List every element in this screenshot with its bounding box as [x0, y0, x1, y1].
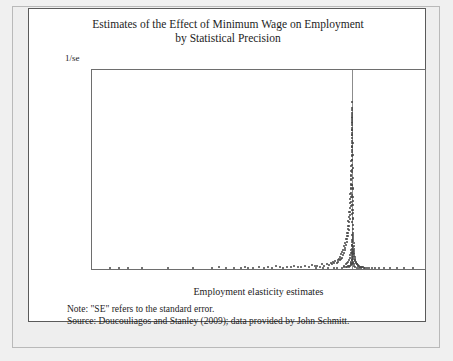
data-point: [363, 267, 365, 269]
data-point: [352, 200, 354, 202]
data-point: [351, 121, 353, 123]
data-point: [351, 194, 353, 196]
y-axis-tick-mark: [91, 154, 92, 155]
data-point: [225, 267, 227, 269]
data-point: [346, 238, 348, 240]
data-point: [342, 254, 344, 256]
data-point: [340, 258, 342, 260]
data-point: [192, 267, 194, 269]
data-point: [351, 184, 353, 186]
figure-panel: Estimates of the Effect of Minimum Wage …: [28, 8, 426, 322]
data-point: [267, 266, 269, 268]
data-point: [349, 218, 351, 220]
data-point: [167, 267, 169, 269]
figure-page: Estimates of the Effect of Minimum Wage …: [0, 0, 453, 361]
data-point: [352, 142, 354, 144]
data-point: [396, 267, 398, 269]
data-point: [327, 267, 329, 269]
x-axis-tick-mark: [291, 269, 292, 270]
data-point: [351, 204, 353, 206]
data-point: [344, 249, 346, 251]
y-axis-tick-mark: [91, 125, 92, 126]
data-point: [352, 217, 354, 219]
data-point: [336, 267, 338, 269]
data-point: [347, 235, 349, 237]
data-point: [352, 177, 354, 179]
data-point: [319, 266, 321, 268]
data-point: [279, 266, 281, 268]
data-point: [240, 267, 242, 269]
data-point: [352, 256, 354, 258]
page-title: Estimates of the Effect of Minimum Wage …: [29, 17, 427, 45]
data-point: [351, 124, 353, 126]
data-point: [308, 266, 310, 268]
data-point: [345, 244, 347, 246]
data-point: [352, 251, 354, 253]
data-point: [347, 261, 349, 263]
data-point: [351, 137, 353, 139]
data-point: [323, 265, 325, 267]
data-point: [352, 188, 354, 190]
data-point: [349, 254, 351, 256]
data-point: [252, 267, 254, 269]
data-point: [258, 266, 260, 268]
data-point: [290, 266, 292, 268]
data-point: [383, 267, 385, 269]
data-point: [389, 267, 391, 269]
y-axis-tick-mark: [91, 182, 92, 183]
x-axis-tick-mark: [170, 269, 171, 270]
data-point: [352, 238, 354, 240]
data-point: [378, 267, 380, 269]
data-point: [127, 267, 129, 269]
data-point: [343, 252, 345, 254]
data-point: [348, 221, 350, 223]
y-axis-tick-mark: [91, 211, 92, 212]
data-point: [247, 267, 249, 269]
data-point: [351, 169, 353, 171]
data-point: [263, 267, 265, 269]
figure-notes: Note: "SE" refers to the standard error.…: [67, 303, 417, 327]
data-point: [346, 241, 348, 243]
data-point: [244, 266, 246, 268]
data-point: [275, 265, 277, 267]
data-point: [118, 267, 120, 269]
data-point: [352, 234, 354, 236]
data-point: [371, 267, 373, 269]
data-point: [352, 253, 354, 255]
data-point: [293, 265, 295, 267]
y-axis-tick-mark: [91, 268, 92, 269]
plot-area: 050100150200250300350-20-15-10-505: [91, 69, 426, 270]
data-point: [352, 167, 354, 169]
data-point: [233, 267, 235, 269]
data-point: [218, 266, 220, 268]
x-axis-tick-mark: [110, 269, 111, 270]
data-point: [211, 267, 213, 269]
data-point: [351, 109, 353, 111]
data-point: [351, 129, 353, 131]
data-point: [351, 101, 353, 103]
data-point: [286, 266, 288, 268]
data-point: [297, 266, 299, 268]
data-point: [349, 257, 351, 259]
x-axis-label: Employment elasticity estimates: [91, 286, 426, 297]
data-point: [352, 209, 354, 211]
data-point: [282, 267, 284, 269]
data-point: [341, 267, 343, 269]
data-point: [403, 267, 405, 269]
data-point: [300, 266, 302, 268]
data-point: [344, 247, 346, 249]
x-axis-tick-mark: [412, 269, 413, 270]
data-point: [322, 267, 324, 269]
data-point: [352, 154, 354, 156]
data-point: [348, 225, 350, 227]
data-point: [374, 267, 376, 269]
data-point: [352, 196, 354, 198]
data-point: [141, 267, 143, 269]
y-axis-unit-label: 1/se: [65, 53, 80, 63]
data-point: [347, 265, 349, 267]
data-point: [333, 267, 335, 269]
data-point: [304, 265, 306, 267]
title-line-1: Estimates of the Effect of Minimum Wage …: [92, 18, 363, 30]
data-point: [351, 149, 353, 151]
data-point: [351, 134, 353, 136]
